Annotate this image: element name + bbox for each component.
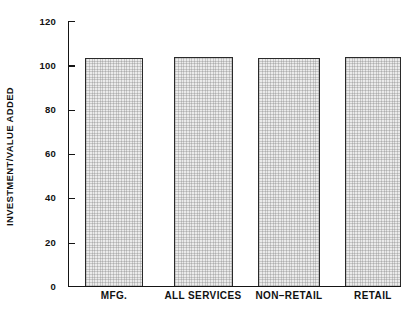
x-tick-label-all-services: ALL SERVICES: [164, 290, 241, 301]
chart-figure: INVESTMENT/VALUE ADDED 0 20 40 60 80 100…: [0, 0, 407, 313]
scan-header: [0, 0, 407, 9]
bar-retail: [345, 57, 401, 286]
y-tick-120: [68, 21, 75, 22]
x-axis-tick-labels: MFG. ALL SERVICES NON–RETAIL RETAIL: [68, 290, 401, 308]
x-tick-label-retail: RETAIL: [354, 290, 392, 301]
y-tick-label-80: 80: [45, 103, 56, 114]
y-tick-label-120: 120: [40, 16, 56, 27]
y-tick-label-20: 20: [45, 236, 56, 247]
y-tick-label-60: 60: [45, 148, 56, 159]
bar-non-retail: [258, 58, 320, 286]
plot-area: [68, 21, 401, 287]
bar-all-services: [174, 57, 233, 286]
bar-mfg: [85, 58, 143, 286]
x-axis-line: [68, 286, 401, 287]
x-tick-label-non-retail: NON–RETAIL: [255, 290, 322, 301]
y-tick-label-100: 100: [40, 59, 56, 70]
y-tick-label-40: 40: [45, 192, 56, 203]
bar-group: [68, 63, 401, 285]
y-axis-tick-labels: 0 20 40 60 80 100 120: [0, 21, 62, 287]
y-tick-label-0: 0: [51, 281, 56, 292]
x-tick-label-mfg: MFG.: [101, 290, 128, 301]
